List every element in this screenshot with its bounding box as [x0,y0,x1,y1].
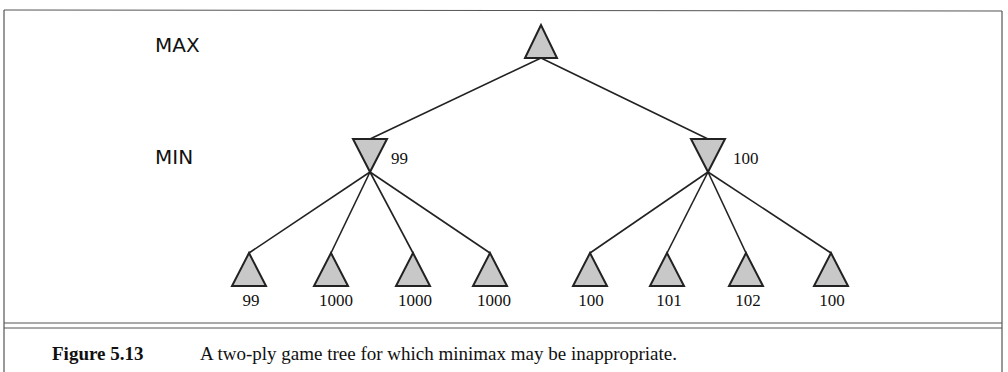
min-node-right [691,139,725,172]
figure-frame [4,10,1002,372]
leaf-value: 101 [656,291,682,310]
max-node-root [525,25,557,58]
leaf-value: 1000 [398,291,432,310]
figure-caption-label: Figure 5.13 [52,343,143,364]
figure-caption-text: A two-ply game tree for which minimax ma… [200,343,677,364]
min-node-right-value: 100 [733,149,759,168]
min-level-label: MIN [155,145,193,169]
leaf-value: 100 [819,291,845,310]
max-level-label: MAX [155,33,200,57]
min-node-left [353,139,387,172]
leaf-value: 99 [243,291,260,310]
leaf-node [396,253,430,286]
leaf-node [473,253,507,286]
leaf-node [232,253,266,286]
leaf-value: 1000 [477,291,511,310]
leaf-node [814,253,848,286]
game-tree-figure: MAX MIN 99 100 99 1000 1000 1000 [0,0,1008,372]
leaf-values: 99 1000 1000 1000 100 101 102 100 [243,291,845,310]
leaf-edges [249,172,831,253]
leaf-node [573,253,607,286]
root-edges [370,58,708,139]
leaf-node [650,253,684,286]
leaf-nodes [232,253,848,286]
leaf-value: 1000 [319,291,353,310]
leaf-node [729,253,763,286]
min-node-left-value: 99 [391,149,408,168]
leaf-node [314,253,348,286]
leaf-value: 102 [735,291,761,310]
leaf-value: 100 [578,291,604,310]
